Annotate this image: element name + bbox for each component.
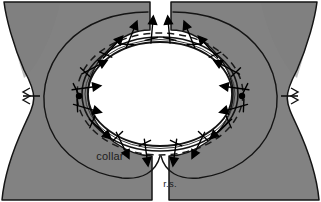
sewing-pattern-figure: collar r.s. — [0, 0, 321, 202]
left-match-dot — [76, 93, 82, 99]
right-side-label: r.s. — [163, 178, 176, 189]
right-match-dot — [239, 93, 245, 99]
collar-label: collar — [96, 150, 124, 162]
pattern-illustration-canvas: collar r.s. — [0, 0, 321, 202]
